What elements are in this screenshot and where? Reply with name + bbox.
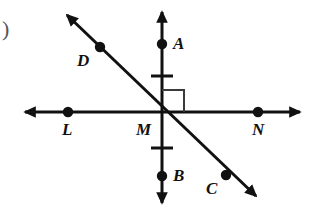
point-label-m: M bbox=[136, 121, 151, 138]
geometry-figure: ABLMNDC ) bbox=[0, 0, 311, 213]
point-dot-a bbox=[157, 39, 167, 49]
point-dot-n bbox=[253, 107, 263, 117]
geometry-canvas bbox=[0, 0, 311, 213]
point-label-a: A bbox=[173, 35, 184, 52]
point-label-l: L bbox=[62, 121, 72, 138]
point-label-d: D bbox=[77, 52, 89, 69]
point-dot-l bbox=[63, 107, 73, 117]
point-label-n: N bbox=[252, 121, 264, 138]
point-dot-b bbox=[157, 171, 167, 181]
point-label-b: B bbox=[173, 167, 184, 184]
point-dot-d bbox=[95, 42, 105, 52]
point-label-c: C bbox=[206, 180, 217, 197]
question-number-marker: ) bbox=[2, 18, 9, 40]
point-dot-c bbox=[221, 170, 231, 180]
